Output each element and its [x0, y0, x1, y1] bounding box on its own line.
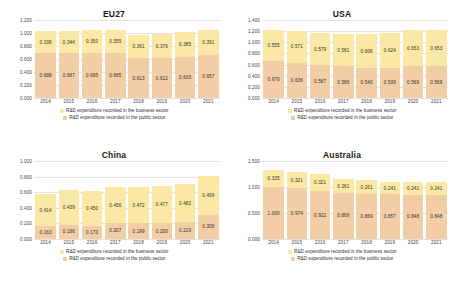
bar-column[interactable]: 0.3351.000: [263, 161, 283, 239]
bar-segment-business[interactable]: 0.385: [175, 32, 195, 57]
bar-segment-business[interactable]: 0.653: [426, 30, 446, 66]
bar-column[interactable]: 0.5710.636: [287, 20, 307, 98]
bar-segment-public[interactable]: 0.540: [356, 68, 376, 98]
bar-segment-public[interactable]: 0.569: [403, 66, 423, 98]
bar-segment-public[interactable]: 0.848: [426, 195, 446, 239]
bar-segment-public[interactable]: 0.685: [105, 53, 125, 98]
bar-segment-public[interactable]: 0.869: [356, 194, 376, 239]
legend-item-business[interactable]: R&D expenditure recorded in the business…: [60, 108, 169, 113]
bar-column[interactable]: 0.4500.170: [82, 161, 102, 239]
bar-segment-public[interactable]: 0.688: [35, 53, 55, 98]
bar-column[interactable]: 0.2410.848: [403, 161, 423, 239]
bar-segment-business[interactable]: 0.321: [310, 174, 330, 191]
bar-segment-public[interactable]: 0.566: [333, 66, 353, 98]
legend-item-public[interactable]: R&D expenditure recorded in the public s…: [63, 256, 166, 261]
bar-segment-public[interactable]: 1.000: [263, 187, 283, 239]
bar-segment-business[interactable]: 0.321: [287, 172, 307, 189]
bar-segment-business[interactable]: 0.439: [59, 190, 79, 224]
legend-item-business[interactable]: R&D expenditure recorded in the business…: [288, 108, 397, 113]
bar-column[interactable]: 0.4140.163: [35, 161, 55, 239]
bar-column[interactable]: 0.4560.207: [105, 161, 125, 239]
bar-column[interactable]: 0.4820.219: [175, 161, 195, 239]
bar-segment-business[interactable]: 0.450: [82, 191, 102, 226]
bar-segment-public[interactable]: 0.633: [175, 57, 195, 98]
bar-segment-business[interactable]: 0.241: [403, 182, 423, 195]
bar-segment-business[interactable]: 0.624: [380, 33, 400, 68]
bar-column[interactable]: 0.3850.633: [175, 20, 195, 98]
bar-segment-public[interactable]: 0.569: [426, 66, 446, 98]
bar-segment-business[interactable]: 0.555: [263, 30, 283, 61]
bar-segment-business[interactable]: 0.344: [59, 31, 79, 53]
bar-segment-public[interactable]: 0.308: [198, 215, 218, 239]
legend-item-public[interactable]: R&D expenditure recorded in the public s…: [291, 115, 394, 120]
bar-column[interactable]: 0.3610.613: [128, 20, 148, 98]
bar-column[interactable]: 0.5810.566: [333, 20, 353, 98]
bar-segment-business[interactable]: 0.361: [128, 35, 148, 58]
bar-column[interactable]: 0.3500.695: [82, 20, 102, 98]
bar-column[interactable]: 0.2610.889: [333, 161, 353, 239]
bar-segment-business[interactable]: 0.571: [287, 31, 307, 63]
bar-segment-public[interactable]: 0.163: [35, 226, 55, 239]
bar-column[interactable]: 0.3210.974: [287, 161, 307, 239]
bar-segment-business[interactable]: 0.241: [426, 182, 446, 195]
bar-column[interactable]: 0.6060.540: [356, 20, 376, 98]
legend-item-business[interactable]: R&D expenditure recorded in the business…: [60, 249, 169, 254]
bar-column[interactable]: 0.4390.186: [59, 161, 79, 239]
bar-segment-business[interactable]: 0.653: [403, 30, 423, 66]
bar-segment-business[interactable]: 0.350: [82, 30, 102, 53]
bar-segment-public[interactable]: 0.200: [152, 223, 172, 239]
bar-segment-business[interactable]: 0.376: [152, 34, 172, 58]
bar-column[interactable]: 0.3440.687: [59, 20, 79, 98]
bar-column[interactable]: 0.3380.688: [35, 20, 55, 98]
bar-segment-public[interactable]: 0.186: [59, 225, 79, 240]
bar-column[interactable]: 0.3550.685: [105, 20, 125, 98]
legend-item-public[interactable]: R&D expenditure recorded in the public s…: [63, 115, 166, 120]
bar-segment-business[interactable]: 0.391: [198, 30, 218, 55]
bar-segment-public[interactable]: 0.539: [380, 68, 400, 98]
bar-segment-business[interactable]: 0.472: [128, 187, 148, 224]
bar-segment-public[interactable]: 0.657: [198, 55, 218, 98]
bar-segment-public[interactable]: 0.199: [128, 223, 148, 239]
bar-segment-public[interactable]: 0.170: [82, 226, 102, 239]
bar-segment-public[interactable]: 0.695: [82, 53, 102, 98]
bar-segment-business[interactable]: 0.456: [105, 187, 125, 223]
bar-segment-public[interactable]: 0.670: [263, 61, 283, 98]
bar-column[interactable]: 0.4720.199: [128, 161, 148, 239]
bar-segment-public[interactable]: 0.922: [310, 191, 330, 239]
bar-segment-public[interactable]: 0.613: [128, 58, 148, 98]
bar-segment-business[interactable]: 0.355: [105, 30, 125, 53]
bar-segment-business[interactable]: 0.579: [310, 33, 330, 65]
bar-column[interactable]: 0.3760.612: [152, 20, 172, 98]
bar-segment-public[interactable]: 0.636: [287, 63, 307, 98]
bar-segment-public[interactable]: 0.687: [59, 53, 79, 98]
bar-segment-business[interactable]: 0.482: [175, 184, 195, 222]
legend-item-business[interactable]: R&D expenditure recorded in the business…: [288, 249, 397, 254]
bar-column[interactable]: 0.4990.308: [198, 161, 218, 239]
bar-column[interactable]: 0.6530.569: [426, 20, 446, 98]
bar-column[interactable]: 0.6240.539: [380, 20, 400, 98]
bar-column[interactable]: 0.3910.657: [198, 20, 218, 98]
bar-segment-public[interactable]: 0.207: [105, 223, 125, 239]
bar-segment-business[interactable]: 0.335: [263, 170, 283, 187]
bar-column[interactable]: 0.2610.869: [356, 161, 376, 239]
bar-column[interactable]: 0.3210.922: [310, 161, 330, 239]
bar-segment-public[interactable]: 0.612: [152, 58, 172, 98]
bar-segment-public[interactable]: 0.587: [310, 65, 330, 98]
bar-segment-business[interactable]: 0.261: [356, 180, 376, 194]
bar-segment-business[interactable]: 0.241: [380, 182, 400, 195]
bar-column[interactable]: 0.6530.569: [403, 20, 423, 98]
bar-segment-business[interactable]: 0.414: [35, 194, 55, 226]
legend-item-public[interactable]: R&D expenditure recorded in the public s…: [291, 256, 394, 261]
bar-segment-business[interactable]: 0.261: [333, 179, 353, 193]
bar-segment-public[interactable]: 0.848: [403, 195, 423, 239]
bar-segment-public[interactable]: 0.219: [175, 222, 195, 239]
bar-segment-business[interactable]: 0.477: [152, 186, 172, 223]
bar-column[interactable]: 0.2410.857: [380, 161, 400, 239]
bar-segment-business[interactable]: 0.499: [198, 176, 218, 215]
bar-segment-business[interactable]: 0.338: [35, 31, 55, 53]
bar-segment-business[interactable]: 0.606: [356, 34, 376, 68]
bar-column[interactable]: 0.5790.587: [310, 20, 330, 98]
bar-column[interactable]: 0.5550.670: [263, 20, 283, 98]
bar-column[interactable]: 0.4770.200: [152, 161, 172, 239]
bar-segment-public[interactable]: 0.974: [287, 188, 307, 239]
